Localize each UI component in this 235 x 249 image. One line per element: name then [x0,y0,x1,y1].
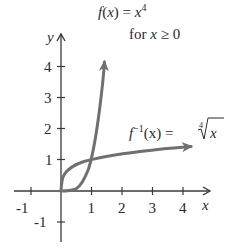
y-tick-label: 4 [44,59,52,75]
x-axis-label: x [201,197,209,213]
label-f-inverse: f−1(x) = [129,123,174,142]
x-tick-label: 4 [179,200,187,216]
y-tick-label: -1 [34,214,47,230]
y-tick-label: 3 [44,90,52,106]
y-tick-label: 1 [45,152,53,168]
x-tick-label: 1 [88,200,96,216]
y-tick-label: 2 [44,121,52,137]
svg-text:x: x [209,125,217,141]
x-tick-label: -1 [16,200,29,216]
label-f-domain: for x ≥ 0 [129,26,180,42]
radical-sign: 4 x [198,118,224,141]
x-tick-label: 3 [149,200,157,216]
function-graph: -1 1 2 3 4 x 4 3 2 1 -1 y f(x) = x4 for … [0,0,235,249]
label-f: f(x) = x4 [98,2,146,21]
x-tick-label: 2 [118,200,126,216]
y-axis-label: y [45,29,54,45]
